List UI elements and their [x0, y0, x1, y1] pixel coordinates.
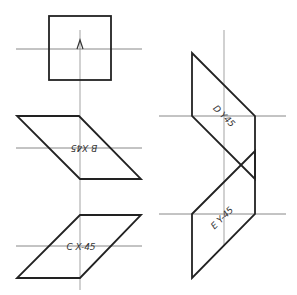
label-b: B X45	[70, 143, 97, 153]
label-e: E Y-45	[209, 205, 236, 232]
label-c: C X-45	[66, 242, 95, 252]
transform-diagram: B X45 C X-45 D Y45 E Y-45	[0, 0, 297, 295]
